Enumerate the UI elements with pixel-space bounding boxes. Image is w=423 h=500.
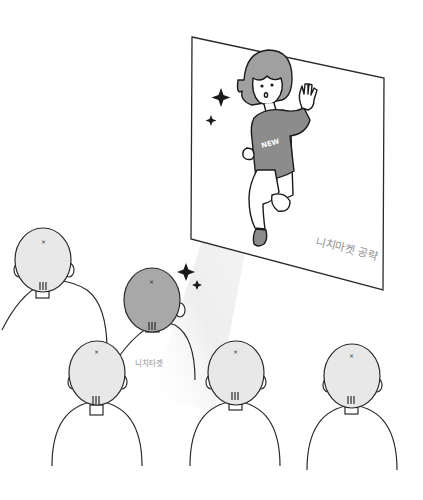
- svg-text:×: ×: [41, 238, 46, 245]
- audience-person-5: ×: [307, 344, 397, 470]
- svg-text:×: ×: [94, 348, 99, 355]
- svg-text:×: ×: [233, 348, 238, 355]
- svg-text:×: ×: [149, 278, 154, 285]
- audience-person-3: ×: [52, 341, 142, 466]
- svg-text:×: ×: [349, 352, 354, 359]
- audience-person-1: ×: [2, 228, 107, 350]
- niche-target-label: 니치타겟: [135, 357, 163, 368]
